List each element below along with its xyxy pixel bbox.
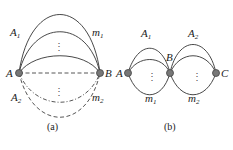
node-a-A (16, 70, 23, 77)
label-b-A2: A2 (187, 27, 199, 41)
diagram-canvas: ⋮ ⋮ A B A1 m1 A2 m2 (a) ⋮ ⋮ A B C A1 A2 … (0, 0, 233, 150)
ellipsis-a-top: ⋮ (54, 41, 64, 52)
caption-a: (a) (47, 121, 58, 133)
edge-a1-middle (19, 32, 100, 73)
label-m2: m2 (92, 91, 104, 105)
edge-b2-outer-top (170, 45, 216, 74)
node-b-C (213, 70, 220, 77)
node-a-B (97, 70, 104, 77)
edge-b1-outer-top (128, 48, 170, 73)
caption-b: (b) (164, 121, 176, 133)
node-label-b-A: A (115, 67, 123, 79)
edge-a1-inner (19, 56, 100, 73)
ellipsis-b-right: ⋮ (192, 71, 202, 82)
node-label-b-B: B (166, 51, 173, 63)
node-b-A (125, 70, 132, 77)
label-A2: A2 (10, 91, 22, 105)
label-A1: A1 (9, 26, 20, 40)
label-b-A1: A1 (140, 27, 151, 41)
figure-a: ⋮ ⋮ A B A1 m1 A2 m2 (a) (5, 15, 112, 134)
node-b-B (167, 70, 174, 77)
ellipsis-b-left: ⋮ (147, 71, 157, 82)
node-label-b-C: C (221, 67, 229, 79)
label-m1: m1 (92, 26, 103, 40)
ellipsis-a-bottom: ⋮ (54, 86, 64, 97)
node-label-a-B: B (105, 67, 112, 79)
node-label-a-A: A (5, 67, 13, 79)
figure-b: ⋮ ⋮ A B C A1 A2 m1 m2 (b) (115, 27, 229, 133)
